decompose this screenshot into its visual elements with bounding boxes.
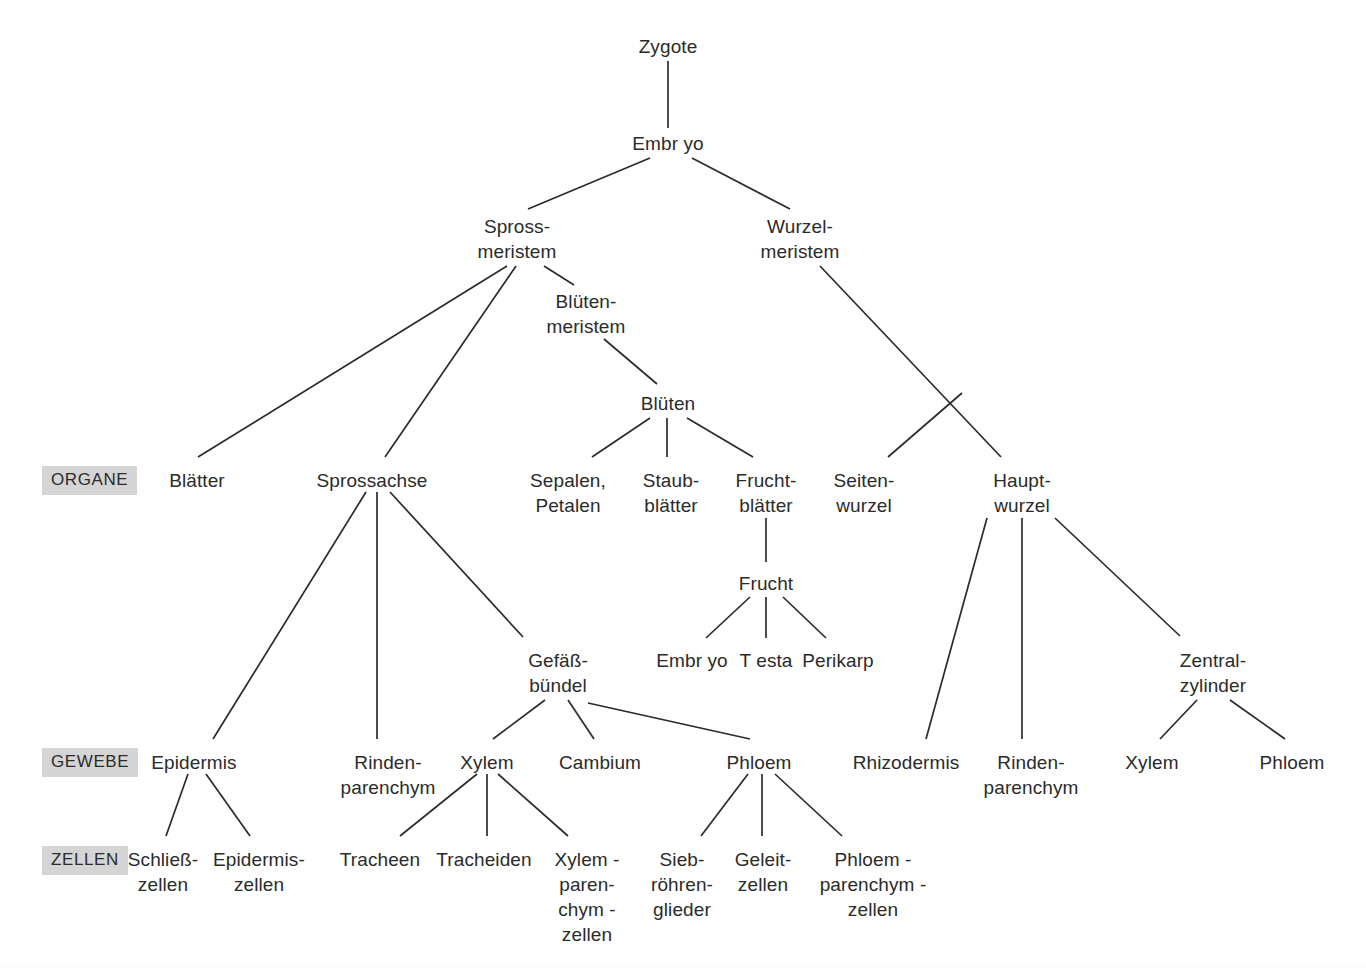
node-label-line: Seiten- [834,468,895,493]
footer-divider [0,967,1366,968]
node-label-line: meristem [761,239,840,264]
node-gefaessbuendel: Gefäß-bündel [528,648,588,698]
node-xylem-spross: Xylem [460,750,513,775]
node-label-line: paren- [554,872,619,897]
node-label-line: zellen [213,872,305,897]
node-phloemparenchymzellen: Phloem -parenchym -zellen [820,847,927,922]
node-label-line: Epidermis- [213,847,305,872]
node-label-line: Spross- [478,214,557,239]
node-xylem-wurzel: Xylem [1125,750,1178,775]
diagram-root: ZygoteEmbr yoSpross-meristemWurzel-meris… [0,0,1366,976]
node-label-line: zellen [735,872,792,897]
node-staubblaetter: Staub-blätter [643,468,700,518]
node-blueten-meristem: Blüten-meristem [547,289,626,339]
node-label-line: Epidermis [151,750,236,775]
node-label-line: Schließ- [128,847,198,872]
node-label-line: Rinden- [984,750,1079,775]
node-schliesszellen: Schließ-zellen [128,847,198,897]
node-label-line: glieder [651,897,713,922]
node-frucht-testa: T esta [739,648,792,673]
level-label-organe: ORGANE [42,466,137,495]
node-siebroehrenglieder: Sieb-röhren-glieder [651,847,713,922]
node-label-line: Rhizodermis [853,750,960,775]
node-label-line: T esta [739,648,792,673]
node-seitenwurzel: Seiten-wurzel [834,468,895,518]
node-label-line: Zygote [639,34,698,59]
node-label-line: zellen [554,922,619,947]
node-blaetter: Blätter [169,468,225,493]
node-label-line: blätter [736,493,797,518]
node-phloem-spross: Phloem [726,750,791,775]
node-label-line: meristem [547,314,626,339]
node-label-line: Blüten [641,391,695,416]
node-label-line: Wurzel- [761,214,840,239]
node-zygote: Zygote [639,34,698,59]
node-label-line: Frucht- [736,468,797,493]
node-cambium: Cambium [559,750,641,775]
node-label-line: Tracheen [340,847,420,872]
node-label-line: Xylem [460,750,513,775]
node-label-line: Phloem [1259,750,1324,775]
node-label-line: Blätter [169,468,225,493]
node-label-line: Cambium [559,750,641,775]
node-label-line: Haupt- [993,468,1051,493]
node-wurzel-meristem: Wurzel-meristem [761,214,840,264]
node-label-line: Rinden- [341,750,436,775]
node-geleitzellen: Geleit-zellen [735,847,792,897]
node-label-line: wurzel [993,493,1051,518]
node-rindenparenchym-wurzel: Rinden-parenchym [984,750,1079,800]
node-label-line: Gefäß- [528,648,588,673]
node-sepalen-petalen: Sepalen,Petalen [530,468,606,518]
node-label-line: Xylem - [554,847,619,872]
node-blueten: Blüten [641,391,695,416]
node-label-line: Staub- [643,468,700,493]
node-label-line: parenchym [984,775,1079,800]
node-label-line: Blüten- [547,289,626,314]
node-frucht-perikarp: Perikarp [802,648,874,673]
node-label-line: bündel [528,673,588,698]
level-label-zellen: ZELLEN [42,846,128,875]
node-tracheen: Tracheen [340,847,420,872]
level-label-gewebe: GEWEBE [42,748,138,777]
node-epidermis: Epidermis [151,750,236,775]
node-rindenparenchym-spross: Rinden-parenchym [341,750,436,800]
node-label-line: Xylem [1125,750,1178,775]
node-label-line: Perikarp [802,648,874,673]
node-label-line: Tracheiden [436,847,531,872]
node-label-line: Embr yo [632,131,703,156]
node-label-line: zellen [820,897,927,922]
node-embryo: Embr yo [632,131,703,156]
node-hauptwurzel: Haupt-wurzel [993,468,1051,518]
node-layer: ZygoteEmbr yoSpross-meristemWurzel-meris… [0,0,1366,976]
node-label-line: chym - [554,897,619,922]
node-epidermiszellen: Epidermis-zellen [213,847,305,897]
node-label-line: röhren- [651,872,713,897]
node-tracheiden: Tracheiden [436,847,531,872]
node-label-line: Embr yo [656,648,727,673]
node-sprossachse: Sprossachse [317,468,428,493]
node-label-line: Zentral- [1180,648,1246,673]
node-label-line: Geleit- [735,847,792,872]
node-label-line: zellen [128,872,198,897]
node-label-line: zylinder [1180,673,1246,698]
node-fruchtblaetter: Frucht-blätter [736,468,797,518]
node-zentralzylinder: Zentral-zylinder [1180,648,1246,698]
node-label-line: Phloem [726,750,791,775]
node-label-line: blätter [643,493,700,518]
node-label-line: parenchym - [820,872,927,897]
node-label-line: Phloem - [820,847,927,872]
node-rhizodermis: Rhizodermis [853,750,960,775]
node-label-line: Petalen [530,493,606,518]
node-label-line: Frucht [739,571,793,596]
node-label-line: Sieb- [651,847,713,872]
node-label-line: meristem [478,239,557,264]
node-xylemparenchymzellen: Xylem -paren-chym -zellen [554,847,619,947]
node-spross-meristem: Spross-meristem [478,214,557,264]
node-label-line: Sepalen, [530,468,606,493]
node-label-line: parenchym [341,775,436,800]
node-label-line: wurzel [834,493,895,518]
node-label-line: Sprossachse [317,468,428,493]
node-frucht-embryo: Embr yo [656,648,727,673]
node-frucht: Frucht [739,571,793,596]
node-phloem-wurzel: Phloem [1259,750,1324,775]
